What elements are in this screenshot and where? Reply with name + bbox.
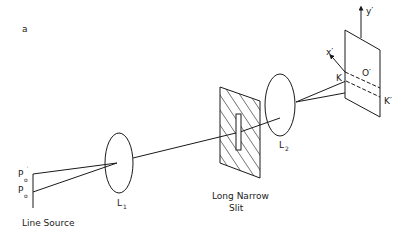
label-k-prime: K′ xyxy=(384,96,392,106)
ray-from-p0-prime xyxy=(33,163,117,174)
label-slit-line2: Slit xyxy=(229,203,244,213)
label-p0-sub: o xyxy=(24,192,28,199)
optical-diagram: a P o ′ P o Line Source L 1 Long xyxy=(0,0,411,241)
lens-l1 xyxy=(105,133,133,193)
label-y-axis: y′ xyxy=(366,6,373,16)
optical-axis-ray-1 xyxy=(133,132,240,158)
x-axis-outside xyxy=(333,58,345,72)
label-k: K xyxy=(336,73,343,83)
line-source xyxy=(33,163,117,208)
panel-label: a xyxy=(22,24,28,34)
label-line-source: Line Source xyxy=(22,218,75,228)
label-origin: O′ xyxy=(362,68,371,78)
label-p0-prime-mark: ′ xyxy=(27,165,29,172)
label-p0-prime-sub: o xyxy=(24,176,28,183)
ray-to-k xyxy=(296,81,346,102)
slit-plate xyxy=(140,80,320,200)
label-l2-sub: 2 xyxy=(285,145,289,152)
label-slit-line1: Long Narrow xyxy=(212,191,269,201)
ray-from-p0 xyxy=(33,163,117,192)
label-l1: L xyxy=(117,198,122,208)
slit-opening xyxy=(236,114,241,150)
observation-screen xyxy=(331,8,380,117)
lens-l2 xyxy=(265,74,295,136)
label-x-axis: x′ xyxy=(326,47,333,57)
label-l1-sub: 1 xyxy=(123,203,127,210)
label-l2: L xyxy=(279,140,284,150)
